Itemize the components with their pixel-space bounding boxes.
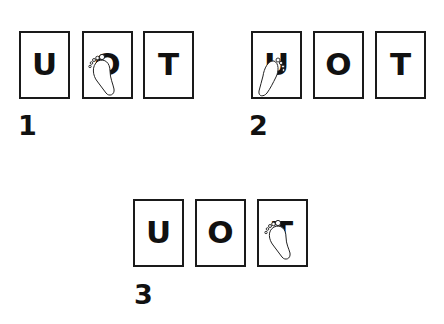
letter: O [315,47,362,81]
card-t: T [143,31,194,99]
letter: O [197,215,244,249]
card-o: O [195,199,246,267]
card-o: O [313,31,364,99]
footprint-icon [264,217,294,261]
panel-label: 1 [18,112,37,140]
panel-label: 3 [134,281,153,309]
card-u: U [19,31,70,99]
letter: U [21,47,68,81]
footprint-icon [256,55,286,99]
footprint-icon [88,51,118,99]
letter: T [377,47,424,81]
card-u: U [251,31,302,99]
card-u: U [133,199,184,267]
letter: U [135,215,182,249]
card-o: O [82,31,133,99]
letter: T [145,47,192,81]
card-t: T [375,31,426,99]
panel-label: 2 [249,112,268,140]
card-t: T [257,199,308,267]
